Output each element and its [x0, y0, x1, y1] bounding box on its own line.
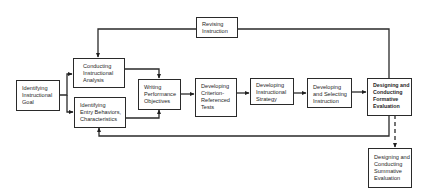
node-label-line: Entry Behaviors, — [80, 109, 122, 116]
node-label-line: Conducting — [373, 89, 408, 96]
node-label-line: Designing and — [374, 154, 408, 161]
node-label-line: Writing — [144, 84, 177, 91]
node-label-line: Strategy — [256, 96, 290, 103]
node-label-line: Evaluation — [374, 175, 408, 182]
node-label-line: Conducting — [83, 63, 121, 70]
node-label-line: Goal — [22, 99, 56, 106]
node-label-line: Identifying — [80, 102, 122, 109]
node-label-line: Instructional — [256, 89, 290, 96]
node-label-line: Developing — [201, 83, 233, 90]
node-label-line: Identifying — [22, 85, 56, 92]
node-label-line: Tests — [201, 104, 233, 111]
node-label-line: Instruction — [313, 98, 348, 105]
edge-goal-to-analysis — [59, 74, 72, 95]
node-formative-evaluation: Designing and Conducting Formative Evalu… — [367, 78, 412, 116]
node-writing-performance-objectives: Writing Performance Objectives — [138, 79, 181, 110]
edge-goal-to-entry — [67, 95, 73, 112]
node-label-line: Summative — [374, 168, 408, 175]
node-label-line: Criterion- — [201, 90, 233, 97]
node-label-line: Objectives — [144, 98, 177, 105]
node-identifying-entry-behaviors: Identifying Entry Behaviors, Characteris… — [74, 97, 126, 128]
node-label-line: Referenced — [201, 97, 233, 104]
node-label-line: Instructional — [22, 92, 56, 99]
node-conducting-instructional-analysis: Conducting Instructional Analysis — [73, 58, 125, 88]
edge-formative-to-revising — [238, 29, 389, 78]
node-label-line: Performance — [144, 91, 177, 98]
node-label-line: Designing and — [373, 82, 408, 89]
edge-revising-to-analysis — [98, 29, 196, 57]
node-label-line: Analysis — [83, 77, 121, 84]
node-label-line: Formative — [373, 96, 408, 103]
node-label-line: and Selecting — [313, 91, 348, 98]
node-label-line: Instruction — [202, 28, 234, 35]
node-label-line: Instructional — [83, 70, 121, 77]
node-identifying-instructional-goal: Identifying Instructional Goal — [16, 80, 60, 111]
node-label-line: Developing — [313, 84, 348, 91]
node-label-line: Evaluation — [373, 103, 408, 110]
node-revising-instruction: Revising Instruction — [196, 17, 238, 38]
node-label-line: Characteristics — [80, 116, 122, 123]
edge-analysis-to-objectives — [125, 69, 159, 78]
node-developing-and-selecting-instruction: Developing and Selecting Instruction — [307, 78, 352, 108]
node-developing-criterion-referenced-tests: Developing Criterion- Referenced Tests — [195, 78, 237, 117]
node-label-line: Developing — [256, 82, 290, 89]
edge-entry-to-objectives — [125, 110, 159, 118]
node-summative-evaluation: Designing and Conducting Summative Evalu… — [368, 148, 412, 188]
node-label-line: Revising — [202, 21, 234, 28]
node-developing-instructional-strategy: Developing Instructional Strategy — [250, 78, 294, 105]
node-label-line: Conducting — [374, 161, 408, 168]
